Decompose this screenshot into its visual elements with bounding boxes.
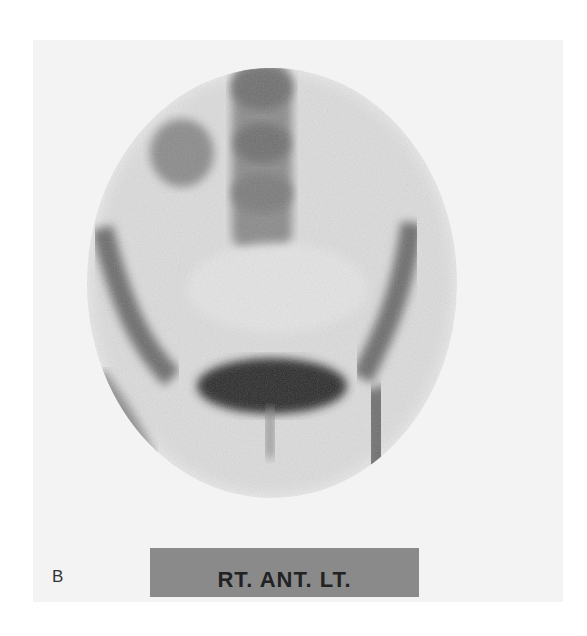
bone-scan-image [82, 58, 462, 503]
orientation-label: RT. ANT. LT. [217, 567, 351, 597]
panel-label: B [52, 567, 63, 587]
orientation-label-bar: RT. ANT. LT. [150, 548, 419, 597]
